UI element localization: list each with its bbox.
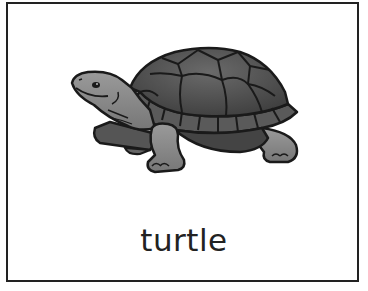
- eye: [92, 82, 100, 88]
- flashcard-word: turtle: [0, 222, 368, 258]
